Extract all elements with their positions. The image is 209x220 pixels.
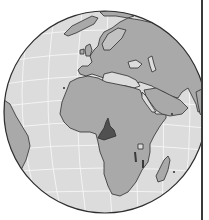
lake-victoria [138, 144, 143, 149]
cape-verde [63, 87, 65, 89]
socotra [171, 113, 173, 115]
lake-malawi [142, 160, 144, 168]
ireland [80, 49, 84, 54]
frame-border-line [201, 0, 203, 220]
locator-globe-map [0, 0, 209, 220]
mascarene [173, 171, 175, 173]
british-isles [85, 44, 92, 56]
